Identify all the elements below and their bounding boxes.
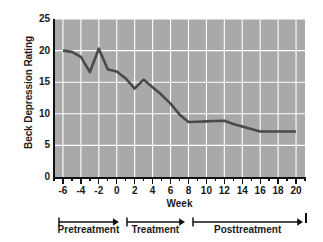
- phase-annotation: Pretreatment: [58, 211, 119, 242]
- y-tick-label: 10: [30, 109, 50, 119]
- plot-area: [54, 19, 305, 177]
- data-series-group: [63, 49, 296, 132]
- phase-annotations: PretreatmentTreatmentPosttreatment: [0, 211, 323, 242]
- y-tick-label: 0: [30, 172, 50, 182]
- x-tick-minor: [53, 178, 54, 181]
- x-tick-label: -6: [59, 185, 68, 196]
- x-tick-major: [152, 178, 153, 184]
- x-tick-major: [295, 178, 296, 184]
- x-tick-label: 4: [150, 185, 156, 196]
- x-tick-major: [116, 178, 117, 184]
- x-tick-major: [224, 178, 225, 184]
- x-tick-minor: [304, 178, 305, 181]
- x-tick-minor: [286, 178, 287, 181]
- data-line: [63, 49, 296, 132]
- chart-figure: Beck Depression Rating 0510152025 -6-4-2…: [0, 0, 323, 242]
- x-tick-minor: [125, 178, 126, 181]
- x-tick-major: [80, 178, 81, 184]
- x-tick-major: [98, 178, 99, 184]
- x-tick-label: 2: [132, 185, 138, 196]
- x-tick-label: 6: [168, 185, 174, 196]
- x-tick-major: [206, 178, 207, 184]
- x-tick-label: 10: [201, 185, 212, 196]
- x-tick-label: 0: [114, 185, 120, 196]
- x-tick-major: [62, 178, 63, 184]
- y-tick-label: 5: [30, 140, 50, 150]
- plot-svg: [54, 19, 305, 177]
- x-tick-minor: [179, 178, 180, 181]
- x-tick-label: -2: [94, 185, 103, 196]
- phase-end-cap: [305, 213, 307, 223]
- phase-arrow-icon: [58, 213, 119, 223]
- x-tick-major: [188, 178, 189, 184]
- y-axis-spine: [53, 19, 55, 178]
- x-tick-label: -4: [76, 185, 85, 196]
- phase-arrow-icon: [126, 213, 185, 223]
- x-tick-minor: [107, 178, 108, 181]
- x-axis-tick-labels: -6-4-202468101214161820: [54, 185, 305, 198]
- phase-label: Posttreatment: [192, 224, 303, 235]
- x-tick-label: 18: [273, 185, 284, 196]
- x-tick-major: [277, 178, 278, 184]
- phase-annotation: Posttreatment: [192, 211, 303, 242]
- phase-label: Pretreatment: [58, 224, 119, 235]
- x-tick-label: 20: [290, 185, 301, 196]
- x-tick-major: [242, 178, 243, 184]
- y-tick-label: 15: [30, 77, 50, 87]
- x-tick-minor: [251, 178, 252, 181]
- x-tick-label: 12: [219, 185, 230, 196]
- x-tick-label: 8: [186, 185, 192, 196]
- x-tick-minor: [215, 178, 216, 181]
- y-axis-tick-labels: 0510152025: [30, 0, 50, 242]
- x-tick-label: 14: [237, 185, 248, 196]
- phase-arrow-icon: [192, 213, 303, 223]
- x-tick-label: 16: [255, 185, 266, 196]
- x-axis-ticks: [54, 178, 305, 185]
- y-tick-label: 20: [30, 46, 50, 56]
- x-tick-minor: [71, 178, 72, 181]
- gridlines: [54, 19, 305, 177]
- x-axis-title: Week: [54, 198, 305, 209]
- phase-annotation: Treatment: [126, 211, 185, 242]
- x-tick-minor: [233, 178, 234, 181]
- x-tick-minor: [143, 178, 144, 181]
- x-tick-minor: [89, 178, 90, 181]
- x-tick-minor: [197, 178, 198, 181]
- x-tick-minor: [268, 178, 269, 181]
- phase-label: Treatment: [126, 224, 185, 235]
- x-tick-major: [260, 178, 261, 184]
- y-tick-label: 25: [30, 14, 50, 24]
- x-tick-major: [134, 178, 135, 184]
- x-tick-minor: [161, 178, 162, 181]
- x-tick-major: [170, 178, 171, 184]
